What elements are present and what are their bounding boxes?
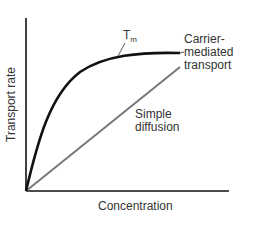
carrier-label-line1: Carrier-mediated [184, 33, 271, 59]
y-axis-label: Transport rate [5, 60, 18, 150]
tm-label: Tm [123, 29, 137, 46]
carrier-label-line2: transport [184, 59, 271, 72]
tm-subscript: m [130, 35, 137, 44]
carrier-label: Carrier-mediated transport [184, 33, 271, 72]
simple-label-line2: diffusion [135, 121, 179, 134]
simple-label: Simple diffusion [135, 108, 179, 134]
x-axis-label: Concentration [98, 200, 173, 213]
